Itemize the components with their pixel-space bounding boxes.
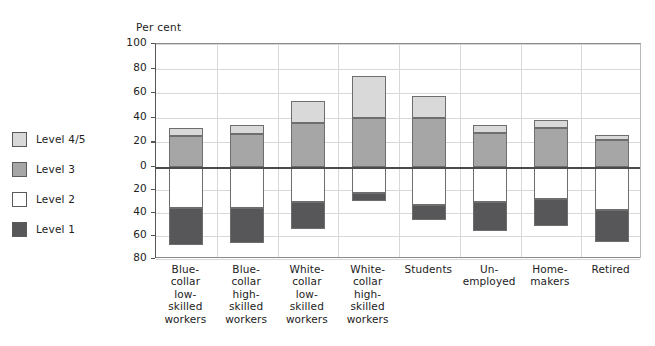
x-axis-label-line: Home- [520, 263, 581, 275]
x-axis-label-line: high- [216, 288, 277, 300]
x-axis-label-line: high- [337, 288, 398, 300]
bar-segment[interactable] [595, 167, 629, 210]
zero-line [155, 167, 640, 169]
legend-item-level-4-5[interactable]: Level 4/5 [12, 124, 124, 154]
bar-group[interactable] [291, 44, 325, 258]
x-axis-label: Students [398, 263, 459, 275]
bar-segment[interactable] [473, 125, 507, 132]
bar-segment[interactable] [352, 193, 386, 201]
chart-legend: Level 4/5 Level 3 Level 2 Level 1 [12, 124, 124, 244]
x-axis-label-line: Students [398, 263, 459, 275]
bar-segment[interactable] [534, 128, 568, 167]
x-axis-label-line: collar [337, 275, 398, 287]
bar-segment[interactable] [291, 202, 325, 230]
x-axis-label-line: Blue- [216, 263, 277, 275]
bar-segment[interactable] [291, 167, 325, 202]
bar-group[interactable] [230, 44, 264, 258]
x-axis-label-line: collar [216, 275, 277, 287]
x-axis-label: White-collarlow-skilledworkers [277, 263, 338, 325]
x-axis-label-line: Un- [459, 263, 520, 275]
bar-segment[interactable] [534, 199, 568, 225]
bar-segment[interactable] [473, 202, 507, 232]
bar-group[interactable] [412, 44, 446, 258]
legend-swatch-level-2 [12, 192, 27, 207]
bar-segment[interactable] [230, 125, 264, 134]
bar-segment[interactable] [352, 76, 386, 118]
legend-swatch-level-4-5 [12, 132, 27, 147]
legend-swatch-level-1 [12, 222, 27, 237]
legend-label-level-3: Level 3 [36, 163, 75, 175]
bar-segment[interactable] [412, 96, 446, 118]
x-axis-label-line: workers [277, 313, 338, 325]
bar-group[interactable] [473, 44, 507, 258]
x-axis-label-line: Blue- [155, 263, 216, 275]
bar-segment[interactable] [534, 120, 568, 127]
bar-segment[interactable] [169, 167, 203, 208]
bar-group[interactable] [169, 44, 203, 258]
x-axis-label-line: skilled [155, 300, 216, 312]
bar-segment[interactable] [352, 118, 386, 167]
bar-segment[interactable] [595, 135, 629, 140]
bars-layer [156, 44, 640, 258]
legend-item-level-2[interactable]: Level 2 [12, 184, 124, 214]
bar-group[interactable] [352, 44, 386, 258]
x-axis-label: Home-makers [520, 263, 581, 288]
x-axis-label-line: low- [277, 288, 338, 300]
bar-segment[interactable] [291, 101, 325, 123]
bar-segment[interactable] [534, 167, 568, 199]
bar-segment[interactable] [169, 136, 203, 167]
x-axis-label-line: workers [337, 313, 398, 325]
bar-segment[interactable] [412, 118, 446, 167]
y-tick-neg-80: 80 [117, 251, 147, 263]
bar-segment[interactable] [230, 134, 264, 167]
plot-area [155, 43, 641, 258]
bar-segment[interactable] [169, 208, 203, 245]
bar-segment[interactable] [230, 167, 264, 208]
x-axis-label-line: employed [459, 275, 520, 287]
x-axis-labels: Blue-collarlow-skilledworkersBlue-collar… [155, 263, 641, 343]
legend-label-level-2: Level 2 [36, 193, 75, 205]
bar-segment[interactable] [412, 167, 446, 205]
x-axis-label-line: skilled [337, 300, 398, 312]
x-axis-label-line: collar [277, 275, 338, 287]
y-axis-unit-label: Per cent [136, 21, 181, 33]
y-tick-pos-0: 0 [117, 159, 147, 171]
bar-segment[interactable] [473, 167, 507, 202]
x-axis-label-line: workers [216, 313, 277, 325]
bar-segment[interactable] [595, 140, 629, 167]
x-axis-label-line: skilled [216, 300, 277, 312]
y-tick-pos-100: 100 [117, 36, 147, 48]
x-axis-label: Retired [580, 263, 641, 275]
bar-segment[interactable] [473, 133, 507, 167]
y-tick-neg-40: 40 [117, 205, 147, 217]
bar-segment[interactable] [595, 210, 629, 242]
x-axis-label-line: low- [155, 288, 216, 300]
legend-label-level-4-5: Level 4/5 [36, 133, 86, 145]
x-axis-label: Blue-collarhigh-skilledworkers [216, 263, 277, 325]
x-axis-label-line: workers [155, 313, 216, 325]
legend-swatch-level-3 [12, 162, 27, 177]
x-axis-label-line: White- [277, 263, 338, 275]
bar-segment[interactable] [352, 167, 386, 193]
bar-segment[interactable] [169, 128, 203, 137]
y-tick-mark-neg-80 [151, 258, 155, 259]
chart-container: Level 4/5 Level 3 Level 2 Level 1 Per ce… [0, 0, 655, 346]
legend-label-level-1: Level 1 [36, 223, 75, 235]
gridline-neg-80 [156, 259, 640, 260]
bar-group[interactable] [534, 44, 568, 258]
legend-item-level-1[interactable]: Level 1 [12, 214, 124, 244]
bar-segment[interactable] [291, 123, 325, 167]
plot-baseline [156, 257, 640, 258]
y-tick-pos-80: 80 [117, 61, 147, 73]
x-axis-label-line: makers [520, 275, 581, 287]
y-tick-neg-20: 20 [117, 182, 147, 194]
legend-item-level-3[interactable]: Level 3 [12, 154, 124, 184]
bar-segment[interactable] [412, 205, 446, 220]
y-tick-pos-40: 40 [117, 110, 147, 122]
bar-segment[interactable] [230, 208, 264, 243]
x-axis-label-line: collar [155, 275, 216, 287]
y-tick-pos-20: 20 [117, 134, 147, 146]
y-tick-pos-60: 60 [117, 85, 147, 97]
bar-group[interactable] [595, 44, 629, 258]
x-axis-label: Blue-collarlow-skilledworkers [155, 263, 216, 325]
